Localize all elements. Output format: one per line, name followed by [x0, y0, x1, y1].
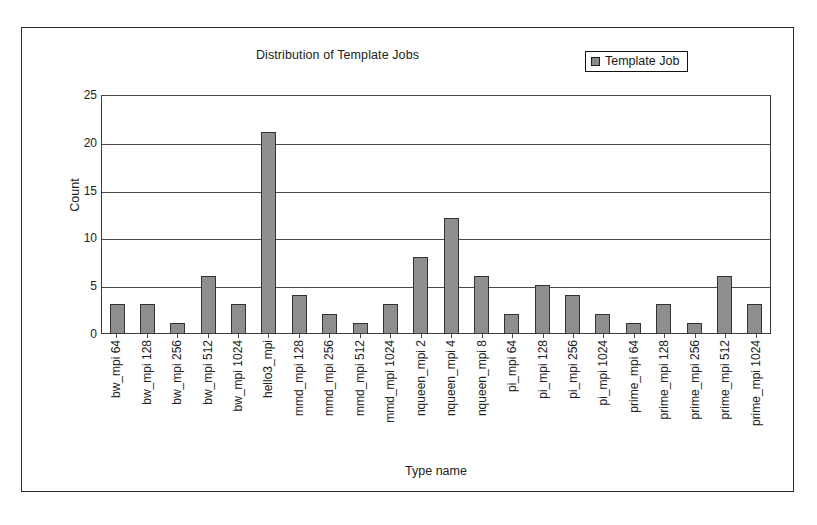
x-axis-label-slot: prime_mpi 256 [680, 340, 710, 460]
x-axis-title: Type name [101, 464, 771, 478]
x-axis-label: pi_mpi 64 [505, 340, 519, 392]
y-axis-tick-label: 25 [84, 88, 97, 102]
bar[interactable] [353, 323, 368, 333]
bar-slot [254, 96, 284, 333]
bar[interactable] [413, 257, 428, 333]
x-axis-label: bw_mpi 1024 [231, 340, 245, 411]
x-axis-label-slot: prime_mpi 64 [619, 340, 649, 460]
bar[interactable] [383, 304, 398, 333]
x-axis-label-slot: pi_mpi 128 [527, 340, 557, 460]
x-axis-label-slot: nqueen_mpi 4 [436, 340, 466, 460]
x-axis-label-slot: bw_mpi 256 [162, 340, 192, 460]
bar-slot [284, 96, 314, 333]
bar-slot [648, 96, 678, 333]
x-axis-label: nqueen_mpi 2 [414, 340, 428, 416]
bar[interactable] [595, 314, 610, 333]
bar[interactable] [444, 218, 459, 333]
x-axis-label-slot: bw_mpi 512 [192, 340, 222, 460]
y-axis-tick-label: 20 [84, 136, 97, 150]
bar-slot [223, 96, 253, 333]
bar[interactable] [474, 276, 489, 333]
bar[interactable] [504, 314, 519, 333]
x-axis-label-slot: mmd_mpi 512 [345, 340, 375, 460]
x-axis-label: prime_mpi 128 [657, 340, 671, 419]
x-axis-label: mmd_mpi 512 [353, 340, 367, 416]
x-axis-label: nqueen_mpi 4 [444, 340, 458, 416]
x-axis-label: nqueen_mpi 8 [475, 340, 489, 416]
chart-legend: Template Job [585, 51, 688, 72]
x-axis-label-slot: mmd_mpi 256 [314, 340, 344, 460]
bar[interactable] [717, 276, 732, 333]
bar-slot [497, 96, 527, 333]
x-axis-label-slot: prime_mpi 128 [649, 340, 679, 460]
bar-slot [132, 96, 162, 333]
x-axis-label-slot: hello3_mpi [253, 340, 283, 460]
bar-slot [527, 96, 557, 333]
x-axis-label-slot: bw_mpi 1024 [223, 340, 253, 460]
x-axis-label: mmd_mpi 256 [322, 340, 336, 416]
x-axis-labels: bw_mpi 64bw_mpi 128bw_mpi 256bw_mpi 512b… [101, 340, 771, 460]
x-axis-label: pi_mpi 1024 [596, 340, 610, 405]
bar[interactable] [626, 323, 641, 333]
bar-slot [193, 96, 223, 333]
x-axis-label-slot: bw_mpi 128 [131, 340, 161, 460]
bar-slot [618, 96, 648, 333]
x-axis-label: mmd_mpi 128 [292, 340, 306, 416]
x-axis-label: prime_mpi 256 [688, 340, 702, 419]
bar[interactable] [201, 276, 216, 333]
x-axis-label-slot: prime_mpi 512 [710, 340, 740, 460]
x-axis-label-slot: pi_mpi 1024 [588, 340, 618, 460]
chart-frame: Distribution of Template Jobs Template J… [21, 27, 794, 492]
bar-slot [375, 96, 405, 333]
bar[interactable] [231, 304, 246, 333]
x-axis-label-slot: nqueen_mpi 8 [466, 340, 496, 460]
x-axis-label-slot: mmd_mpi 128 [284, 340, 314, 460]
bar[interactable] [656, 304, 671, 333]
legend-label: Template Job [605, 55, 679, 68]
y-axis-tick-label: 15 [84, 184, 97, 198]
bar-slot [466, 96, 496, 333]
x-axis-label-slot: nqueen_mpi 2 [406, 340, 436, 460]
bar-slot [315, 96, 345, 333]
bar[interactable] [687, 323, 702, 333]
bar-slot [679, 96, 709, 333]
bar-slot [406, 96, 436, 333]
bar-slot [345, 96, 375, 333]
plot-area [101, 95, 771, 334]
x-axis-label: bw_mpi 128 [140, 340, 154, 405]
y-axis-tick-label: 10 [84, 231, 97, 245]
x-axis-label: pi_mpi 128 [536, 340, 550, 399]
x-axis-label: bw_mpi 64 [109, 340, 123, 398]
x-axis-label-slot: mmd_mpi 1024 [375, 340, 405, 460]
x-axis-label-slot: prime_mpi 1024 [741, 340, 771, 460]
y-axis-tick-label: 0 [90, 327, 97, 341]
x-axis-label: bw_mpi 256 [170, 340, 184, 405]
bar[interactable] [170, 323, 185, 333]
bar[interactable] [565, 295, 580, 333]
bar[interactable] [322, 314, 337, 333]
bar-slot [588, 96, 618, 333]
y-axis-ticks: 2520151050 [61, 95, 97, 334]
x-axis-label: prime_mpi 64 [627, 340, 641, 413]
y-axis-tick-label: 5 [90, 279, 97, 293]
x-axis-label: hello3_mpi [261, 340, 275, 398]
x-axis-label: mmd_mpi 1024 [383, 340, 397, 423]
x-axis-label-slot: bw_mpi 64 [101, 340, 131, 460]
bar-slot [557, 96, 587, 333]
bar[interactable] [261, 132, 276, 333]
bar-slot [436, 96, 466, 333]
bar-slot [740, 96, 770, 333]
bar[interactable] [292, 295, 307, 333]
bar-slot [102, 96, 132, 333]
x-axis-label: prime_mpi 512 [718, 340, 732, 419]
x-axis-label: prime_mpi 1024 [749, 340, 763, 426]
bar[interactable] [535, 285, 550, 333]
x-axis-label-slot: pi_mpi 256 [558, 340, 588, 460]
bar-series [102, 96, 770, 333]
x-axis-label: bw_mpi 512 [201, 340, 215, 405]
bar-slot [709, 96, 739, 333]
x-axis-label: pi_mpi 256 [566, 340, 580, 399]
bar[interactable] [110, 304, 125, 333]
bar[interactable] [747, 304, 762, 333]
bar[interactable] [140, 304, 155, 333]
